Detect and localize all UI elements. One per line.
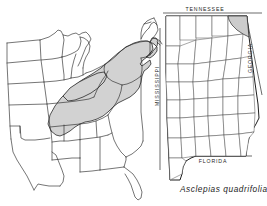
range-polygon-appalachian xyxy=(48,38,158,136)
species-caption: Asclepias quadrifolia xyxy=(179,184,267,194)
label-florida: FLORIDA xyxy=(199,158,227,164)
regional-range-map xyxy=(7,18,162,200)
label-georgia: GEORGIA xyxy=(247,43,253,73)
label-mississippi: MISSISSIPPI xyxy=(154,66,160,106)
label-tennessee: TENNESSEE xyxy=(185,6,224,12)
state-boundaries-west xyxy=(7,40,51,190)
distribution-map-figure: TENNESSEE FLORIDA MISSISSIPPI GEORGIA As… xyxy=(0,0,267,206)
alabama-county-map: TENNESSEE FLORIDA MISSISSIPPI GEORGIA xyxy=(154,6,263,181)
state-boundaries-midwest xyxy=(40,30,91,82)
county-boundaries xyxy=(166,16,255,180)
distribution-range-shading xyxy=(48,38,158,136)
map-canvas: TENNESSEE FLORIDA MISSISSIPPI GEORGIA As… xyxy=(0,0,267,206)
